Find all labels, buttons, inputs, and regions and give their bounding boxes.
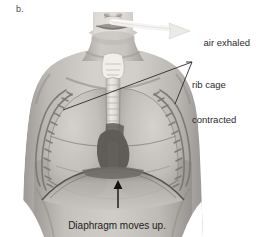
label-air-exhaled: air exhaled xyxy=(193,25,250,60)
label-diaphragm-moves-up: Diaphragm moves up. xyxy=(57,209,166,237)
torso-anatomy-graphic xyxy=(20,12,206,237)
figure-panel: b. xyxy=(0,0,256,237)
rib-cage-line1: rib cage xyxy=(192,79,236,91)
rib-cage-line2: contracted xyxy=(192,114,236,126)
label-rib-cage-contracted: rib cage contracted xyxy=(192,56,236,148)
diaphragm-text: Diaphragm moves up. xyxy=(68,220,166,231)
air-exhaled-text: air exhaled xyxy=(204,37,250,48)
anatomy-illustration xyxy=(20,12,206,237)
larynx xyxy=(102,53,125,80)
